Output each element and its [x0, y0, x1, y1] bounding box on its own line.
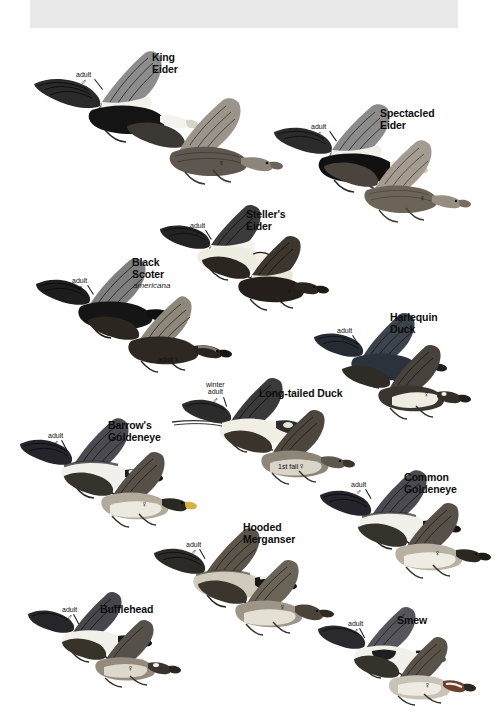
- species-name-stellers-eider: Steller's Eider: [246, 209, 286, 232]
- species-name-king-eider: King Eider: [152, 52, 178, 75]
- callout-smew-adult-male: adult♂: [348, 612, 363, 643]
- sex-symbol-male: ♂: [351, 488, 366, 497]
- sex-symbol-male: ♂: [206, 396, 225, 405]
- sex-symbol-harlequin-duck-female: ♀: [423, 390, 430, 399]
- subspecies-black-scoter: americana: [133, 281, 170, 290]
- species-name-common-goldeneye: Common Goldeneye: [404, 472, 457, 495]
- callout-bufflehead-adult-male: adult♂: [62, 598, 77, 629]
- species-name-bufflehead: Bufflehead: [100, 604, 153, 616]
- sex-symbol-male: ♂: [76, 78, 91, 87]
- bird-king-eider-female: [125, 98, 285, 188]
- sex-symbol-female: ♀: [173, 354, 180, 364]
- callout-black-scoter-adult-male: adult♂: [72, 269, 87, 300]
- species-name-barrows-goldeneye: Barrow's Goldeneye: [108, 420, 161, 443]
- callout-long-tailed-duck-winter-adult-male: winter adult♂: [206, 373, 225, 412]
- sex-symbol-male: ♂: [190, 229, 205, 238]
- species-name-harlequin-duck: Harlequin Duck: [390, 312, 438, 335]
- callout-spectacled-eider-adult-male: adult♂: [311, 115, 326, 146]
- bird-spectacled-eider-female: [322, 140, 477, 225]
- sex-symbol-male: ♂: [72, 284, 87, 293]
- sex-symbol-stellers-eider-female: ♀: [286, 287, 293, 296]
- bird-black-scoter-female: [86, 296, 246, 381]
- callout-text: adult: [158, 356, 173, 363]
- species-name-black-scoter: Black Scoter: [132, 257, 164, 280]
- callout-text: winter adult: [206, 381, 225, 396]
- bird-bufflehead-female: [60, 620, 195, 692]
- bird-barrows-goldeneye-female: [62, 452, 212, 534]
- callout-text: 1st fall: [278, 463, 298, 470]
- callout-black-scoter-adult-female: adult♀: [158, 348, 180, 363]
- sex-symbol-male: ♂: [337, 334, 352, 343]
- callout-harlequin-duck-adult-male: adult♂: [337, 319, 352, 350]
- bird-smew-female: [352, 637, 492, 713]
- sex-symbol-king-eider-female: ♀: [218, 159, 225, 168]
- sex-symbol-male: ♂: [311, 130, 326, 139]
- sex-symbol-hooded-merganser-female: ♀: [279, 603, 286, 612]
- sex-symbol-bufflehead-female: ♀: [127, 664, 134, 673]
- sex-symbol-common-goldeneye-female: ♀: [434, 549, 441, 558]
- species-name-hooded-merganser: Hooded Merganser: [243, 522, 295, 545]
- species-name-long-tailed-duck: Long-tailed Duck: [259, 388, 343, 400]
- sex-symbol-spectacled-eider-female: ♀: [419, 194, 426, 203]
- sex-symbol-barrows-goldeneye-female: ♀: [141, 500, 148, 509]
- callout-long-tailed-duck-1st-fall-female: 1st fall♀: [278, 455, 305, 470]
- callout-king-eider-adult-male: adult♂: [76, 63, 91, 94]
- bird-common-goldeneye-female: [356, 503, 495, 585]
- callout-stellers-eider-adult-male: adult♂: [190, 214, 205, 245]
- sex-symbol-female: ♀: [298, 461, 305, 471]
- species-name-smew: Smew: [397, 615, 427, 627]
- sex-symbol-smew-female: ♀: [424, 681, 431, 690]
- species-name-spectacled-eider: Spectacled Eider: [380, 108, 434, 131]
